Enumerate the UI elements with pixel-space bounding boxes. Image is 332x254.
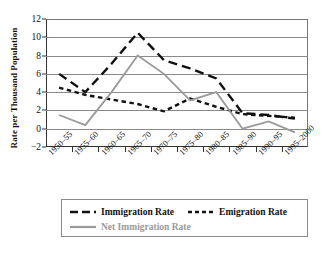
y-tick-label: 6 [36, 69, 41, 79]
legend-item-immigration-rate: Immigration Rate [70, 207, 174, 217]
legend-item-emigration-rate: Emigration Rate [188, 207, 287, 217]
y-tick-label: 0 [36, 124, 41, 134]
legend-swatch-emigration-rate [188, 207, 214, 217]
chart-legend: Immigration Rate Emigration Rate Net Imm… [61, 199, 308, 237]
y-axis-title: Rate per Thousand Population [9, 18, 19, 158]
y-tick-label: 8 [36, 51, 41, 61]
series-line-net-immigration-rate [59, 56, 295, 133]
plot-area: 121086420−2 [46, 19, 308, 147]
y-tick-label: 4 [36, 87, 41, 97]
legend-row-secondary: Net Immigration Rate [70, 219, 299, 234]
legend-swatch-net-immigration-rate [70, 222, 96, 232]
y-tick-label: 10 [32, 32, 42, 42]
y-tick-label: 2 [36, 105, 41, 115]
legend-item-net-immigration-rate: Net Immigration Rate [70, 222, 191, 232]
legend-label-emigration-rate: Emigration Rate [219, 207, 287, 217]
series-lines [46, 19, 308, 147]
y-tick-label: 12 [32, 14, 42, 24]
legend-label-immigration-rate: Immigration Rate [101, 207, 174, 217]
legend-swatch-immigration-rate [70, 207, 96, 217]
x-axis-labels: 1950–551955–601960–651965–701970–751975–… [46, 150, 308, 194]
immigration-rate-line-chart: Rate per Thousand Population 121086420−2… [0, 0, 332, 254]
y-tick-label: −2 [31, 142, 41, 152]
legend-row-primary: Immigration Rate Emigration Rate [70, 204, 299, 219]
figure-caption [18, 243, 318, 254]
legend-label-net-immigration-rate: Net Immigration Rate [101, 222, 191, 232]
